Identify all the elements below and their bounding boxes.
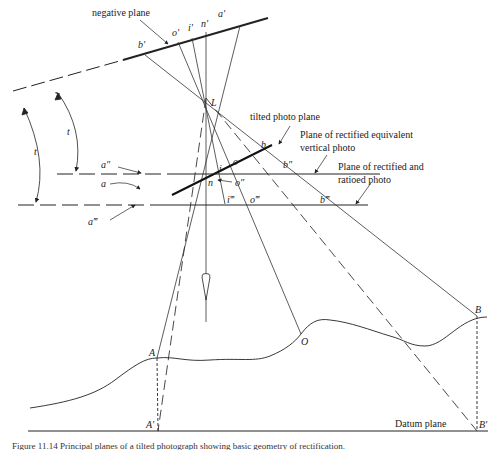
point-b-tpl: b‴ bbox=[320, 194, 330, 205]
point-i-tpl: i‴ bbox=[227, 194, 235, 205]
point-L: L bbox=[210, 97, 217, 108]
label-datum-plane: Datum plane bbox=[395, 418, 447, 429]
point-b-prime: b' bbox=[138, 39, 146, 50]
point-o-prime: o' bbox=[172, 27, 180, 38]
point-i: i bbox=[219, 163, 222, 174]
point-A-prime: A' bbox=[145, 419, 155, 430]
label-tilted-photo-plane: tilted photo plane bbox=[250, 111, 321, 122]
label-rectified-equivalent-2: vertical photo bbox=[300, 142, 355, 153]
point-O: O bbox=[301, 336, 308, 347]
rays bbox=[145, 26, 477, 358]
angle-t-inner: t bbox=[67, 126, 70, 137]
point-b: b bbox=[261, 139, 266, 150]
terrain-profile bbox=[30, 317, 487, 408]
vertical-drops bbox=[157, 316, 477, 431]
point-A: A bbox=[148, 347, 156, 358]
angle-t-outer: t bbox=[34, 146, 37, 157]
label-rectified-ratioed-2: ratioed photo bbox=[338, 174, 391, 185]
rectification-diagram: negative plane tilted photo plane Plane … bbox=[0, 0, 504, 450]
label-negative-plane: negative plane bbox=[92, 7, 151, 18]
figure-caption: Figure 11.14 Principal planes of a tilte… bbox=[12, 441, 345, 450]
tilt-angle-arcs bbox=[24, 93, 78, 202]
negative-plane bbox=[13, 18, 268, 91]
point-B: B bbox=[475, 304, 481, 315]
point-a: a bbox=[101, 178, 106, 189]
label-rectified-equivalent-1: Plane of rectified equivalent bbox=[300, 129, 413, 140]
point-o: o bbox=[233, 156, 238, 167]
plumb-bob-icon bbox=[202, 274, 210, 301]
point-b-dbl: b″ bbox=[283, 159, 293, 170]
label-rectified-ratioed-1: Plane of rectified and bbox=[338, 161, 424, 172]
point-i-prime: i' bbox=[188, 22, 194, 33]
point-a-dbl: a″ bbox=[101, 159, 111, 170]
point-n: n bbox=[208, 177, 213, 188]
point-a-prime: a' bbox=[218, 8, 226, 19]
point-o-dbl: o″ bbox=[235, 177, 245, 188]
point-a-tpl: a‴ bbox=[88, 216, 98, 227]
point-B-prime: B' bbox=[479, 419, 488, 430]
point-n-prime: n' bbox=[201, 18, 209, 29]
point-o-tpl: o‴ bbox=[250, 194, 260, 205]
